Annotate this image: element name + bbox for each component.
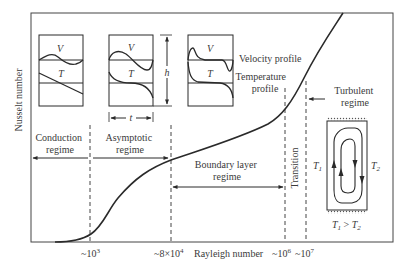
v-symbol-2: V	[128, 42, 136, 53]
t-symbol: t	[130, 112, 133, 123]
asymptotic-label: Asymptotic regime	[105, 132, 154, 155]
transition-label: Transition	[289, 148, 300, 189]
velocity-profile-label: Velocity profile	[239, 53, 302, 64]
turbulent-label: Turbulent regime	[334, 85, 376, 108]
x-axis-label: Rayleigh number	[194, 248, 264, 259]
temperature-condition: T1 > T2	[332, 219, 361, 232]
x-tick-8e4: ~8×104	[154, 247, 184, 259]
t-symbol-3: T	[207, 68, 214, 79]
t-symbol-1: T	[58, 68, 65, 79]
v-symbol-1: V	[57, 43, 65, 54]
nusselt-curve	[55, 13, 343, 242]
t2-label: T2	[371, 160, 381, 173]
x-tick-1e7: ~107	[295, 247, 314, 259]
conduction-label: Conduction regime	[35, 132, 84, 155]
boundary-layer-label: Boundary layer regime	[195, 159, 259, 182]
x-tick-1e6: ~106	[272, 247, 291, 259]
convection-cell	[327, 117, 367, 214]
y-axis-label: Nusselt number	[13, 68, 24, 132]
v-symbol-3: V	[207, 43, 215, 54]
t1-label: T1	[313, 160, 322, 173]
x-tick-1e3: ~103	[81, 247, 100, 259]
regime-diagram: Conduction regime Asymptotic regime Boun…	[0, 0, 405, 269]
t-symbol-2: T	[128, 68, 135, 79]
h-symbol: h	[165, 67, 170, 78]
temperature-profile-label: Temperature profile	[236, 71, 289, 94]
